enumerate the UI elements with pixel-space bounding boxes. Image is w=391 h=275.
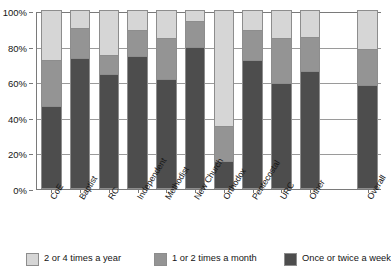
bar-segment-1-or-2-times-a-month[interactable] (70, 28, 91, 59)
bar-new-church[interactable] (185, 12, 206, 189)
bar-stack (41, 12, 62, 189)
bar-stack (300, 12, 321, 189)
bar-segment-once-or-twice-a-week[interactable] (127, 56, 148, 189)
bar-pentecostal[interactable] (242, 12, 263, 189)
bar-segment-2-or-4-times-a-year[interactable] (242, 10, 263, 31)
legend-label: 2 or 4 times a year (44, 254, 121, 263)
bar-segment-2-or-4-times-a-year[interactable] (99, 10, 120, 56)
legend-label: 1 or 2 times a month (172, 254, 257, 263)
y-tick-label-0: 0% (13, 185, 27, 196)
bar-stack (70, 12, 91, 189)
legend-swatch-icon (284, 253, 297, 266)
y-tick-label-80: 80% (8, 42, 27, 53)
bar-segment-2-or-4-times-a-year[interactable] (185, 10, 206, 22)
legend-item-0[interactable]: 2 or 4 times a year (26, 252, 121, 266)
bar-segment-2-or-4-times-a-year[interactable] (127, 10, 148, 31)
bar-segment-1-or-2-times-a-month[interactable] (300, 37, 321, 72)
bar-segment-1-or-2-times-a-month[interactable] (357, 49, 378, 86)
bar-segment-2-or-4-times-a-year[interactable] (70, 10, 91, 29)
bar-segment-1-or-2-times-a-month[interactable] (99, 55, 120, 76)
y-tick-label-40: 40% (8, 113, 27, 124)
legend-swatch-icon (26, 253, 39, 266)
x-axis-labels: CoEBaptistRCIndependentMethodistNew Chur… (36, 192, 381, 250)
bar-segment-1-or-2-times-a-month[interactable] (185, 21, 206, 49)
y-tickmark-0 (29, 190, 33, 191)
legend-label: Once or twice a week (302, 254, 391, 263)
bar-stack (242, 12, 263, 189)
bar-segment-1-or-2-times-a-month[interactable] (242, 30, 263, 61)
bar-segment-once-or-twice-a-week[interactable] (70, 58, 91, 189)
bar-segment-1-or-2-times-a-month[interactable] (41, 60, 62, 107)
bar-stack (185, 12, 206, 189)
y-tickmark-40 (29, 119, 33, 120)
bar-segment-2-or-4-times-a-year[interactable] (271, 10, 292, 39)
plot-area (36, 12, 381, 190)
bar-independent[interactable] (127, 12, 148, 189)
bar-segment-1-or-2-times-a-month[interactable] (156, 38, 177, 80)
bar-segment-2-or-4-times-a-year[interactable] (156, 10, 177, 39)
y-tickmark-60 (29, 83, 33, 84)
bar-segment-2-or-4-times-a-year[interactable] (357, 10, 378, 50)
bar-coe[interactable] (41, 12, 62, 189)
y-axis: 0%20%40%60%80%100% (0, 12, 33, 190)
bar-overall[interactable] (357, 12, 378, 189)
legend-item-1[interactable]: 1 or 2 times a month (154, 252, 257, 266)
bar-stack (127, 12, 148, 189)
bar-series-layer (37, 12, 381, 189)
bar-segment-1-or-2-times-a-month[interactable] (271, 38, 292, 84)
bar-rc[interactable] (99, 12, 120, 189)
cropped-text-artifact (0, 0, 383, 9)
bar-stack (357, 12, 378, 189)
bar-other[interactable] (300, 12, 321, 189)
bar-segment-once-or-twice-a-week[interactable] (357, 85, 378, 189)
y-tick-label-60: 60% (8, 78, 27, 89)
y-tickmark-100 (29, 12, 33, 13)
y-tickmark-20 (29, 154, 33, 155)
bar-stack (99, 12, 120, 189)
bar-segment-once-or-twice-a-week[interactable] (300, 71, 321, 189)
y-tick-label-100: 100% (3, 7, 27, 18)
bar-segment-2-or-4-times-a-year[interactable] (41, 10, 62, 61)
bar-segment-once-or-twice-a-week[interactable] (99, 74, 120, 189)
bar-baptist[interactable] (70, 12, 91, 189)
legend-swatch-icon (154, 253, 167, 266)
bar-segment-once-or-twice-a-week[interactable] (41, 106, 62, 189)
bar-segment-1-or-2-times-a-month[interactable] (127, 30, 148, 58)
y-tickmark-80 (29, 48, 33, 49)
bar-segment-2-or-4-times-a-year[interactable] (300, 10, 321, 38)
chart-legend: 2 or 4 times a year1 or 2 times a monthO… (26, 252, 376, 268)
bar-segment-2-or-4-times-a-year[interactable] (214, 10, 235, 127)
legend-item-2[interactable]: Once or twice a week (284, 252, 391, 266)
y-tick-label-20: 20% (8, 149, 27, 160)
